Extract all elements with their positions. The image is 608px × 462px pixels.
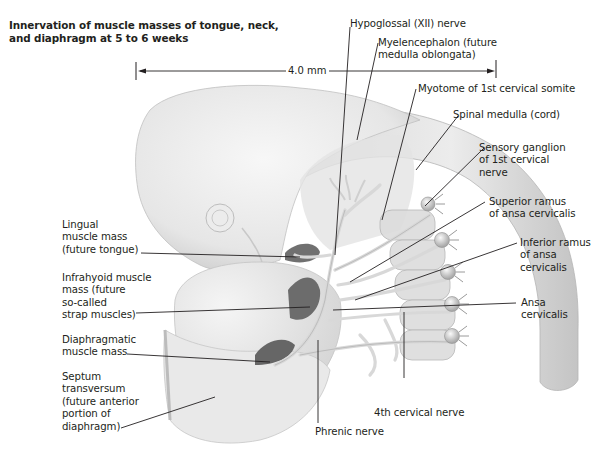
label-superior-ramus: Superior ramus of ansa cervicalis	[489, 196, 575, 221]
label-inferior-ramus: Inferior ramus of ansa cervicalis	[520, 237, 591, 274]
label-septum-transversum: Septum transversum (future anterior port…	[62, 371, 139, 433]
label-myotome-1st-cervical-somite: Myotome of 1st cervical somite	[418, 83, 575, 95]
label-hypoglossal-nerve: Hypoglossal (XII) nerve	[350, 18, 466, 30]
scale-bar-label: 4.0 mm	[286, 65, 329, 76]
label-lingual-muscle-mass: Lingual muscle mass (future tongue)	[62, 219, 138, 256]
label-myelencephalon: Myelencephalon (future medulla oblongata…	[378, 37, 497, 62]
label-spinal-medulla: Spinal medulla (cord)	[453, 109, 560, 121]
label-phrenic-nerve: Phrenic nerve	[315, 426, 384, 438]
label-diaphragmatic-muscle-mass: Diaphragmatic muscle mass	[62, 334, 136, 359]
label-4th-cervical-nerve: 4th cervical nerve	[374, 407, 464, 419]
label-sensory-ganglion: Sensory ganglion of 1st cervical nerve	[479, 142, 566, 179]
lingual-muscle-mass	[285, 244, 320, 263]
label-infrahyoid-muscle-mass: Infrahyoid muscle mass (future so-called…	[62, 272, 151, 322]
label-ansa-cervicalis: Ansa cervicalis	[521, 297, 568, 322]
otic-region	[206, 204, 234, 232]
